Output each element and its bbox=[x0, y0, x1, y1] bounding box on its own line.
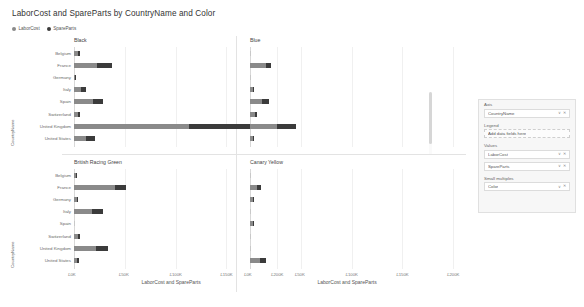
bar-segment-empty bbox=[250, 246, 251, 251]
bar-segment[interactable] bbox=[97, 63, 112, 68]
bar-segment[interactable] bbox=[96, 246, 108, 251]
gridline bbox=[453, 47, 454, 147]
bar-segment[interactable] bbox=[77, 258, 79, 263]
bar-segment[interactable] bbox=[250, 63, 266, 68]
gridline bbox=[301, 169, 302, 269]
panel-divider-vertical bbox=[236, 36, 237, 292]
bar-segment[interactable] bbox=[92, 209, 103, 214]
bar-segment[interactable] bbox=[74, 209, 92, 214]
small-multiple-panel[interactable]: BlackCountryNameBelgiumFranceGermanyItal… bbox=[0, 34, 236, 154]
bar-segment[interactable] bbox=[78, 51, 81, 56]
bar-segment[interactable] bbox=[75, 75, 76, 80]
field-well-item[interactable]: CountryName∨✕ bbox=[484, 109, 570, 118]
x-axis-title: LaborCost and SpareParts bbox=[318, 279, 377, 285]
x-axis-title: LaborCost and SpareParts bbox=[142, 279, 201, 285]
bar-segment[interactable] bbox=[76, 173, 77, 178]
x-tick-label: £150K bbox=[220, 272, 232, 277]
bar-segment-empty bbox=[250, 209, 251, 214]
category-label: United States bbox=[11, 258, 71, 264]
category-label: Switzerland bbox=[11, 234, 71, 240]
category-label: United Kingdom bbox=[11, 246, 71, 252]
field-well-section-label: Small multiples bbox=[479, 174, 575, 183]
x-tick-label: £200K bbox=[447, 272, 459, 277]
bar-segment[interactable] bbox=[262, 99, 269, 104]
bar-segment[interactable] bbox=[266, 63, 272, 68]
bar-segment[interactable] bbox=[81, 87, 86, 92]
bar-segment[interactable] bbox=[86, 136, 95, 141]
field-well-icons: ∨✕ bbox=[558, 183, 567, 190]
bar-segment[interactable] bbox=[74, 136, 86, 141]
gridline bbox=[352, 47, 353, 147]
bar-segment-empty bbox=[250, 51, 251, 56]
bar-segment[interactable] bbox=[74, 246, 96, 251]
bar-segment-empty bbox=[250, 75, 251, 80]
powerbi-visual-canvas: LaborCost and SpareParts by CountryName … bbox=[0, 0, 584, 307]
panel-divider-horizontal bbox=[62, 154, 466, 155]
bar-segment-empty bbox=[250, 234, 251, 239]
bar-segment[interactable] bbox=[74, 87, 81, 92]
bar-segment[interactable] bbox=[250, 99, 262, 104]
legend-dot-icon bbox=[12, 27, 16, 31]
bar-segment[interactable] bbox=[250, 258, 260, 263]
chevron-down-icon[interactable]: ∨ bbox=[558, 185, 561, 189]
field-well-label: SpareParts bbox=[488, 164, 510, 169]
field-well-item[interactable]: LaborCost∨✕ bbox=[484, 150, 570, 159]
small-multiples-plot-area: BlackCountryNameBelgiumFranceGermanyItal… bbox=[0, 34, 466, 297]
bar-segment-empty bbox=[250, 173, 251, 178]
category-label: Spain bbox=[11, 99, 71, 105]
field-well-item[interactable]: SpareParts∨✕ bbox=[484, 162, 570, 171]
gridline bbox=[402, 169, 403, 269]
bar-segment[interactable] bbox=[78, 112, 80, 117]
page-title: LaborCost and SpareParts by CountryName … bbox=[12, 9, 215, 18]
gridline bbox=[453, 169, 454, 269]
bar-segment[interactable] bbox=[253, 87, 254, 92]
bar-segment[interactable] bbox=[77, 197, 78, 202]
chevron-down-icon[interactable]: ∨ bbox=[558, 164, 561, 168]
close-icon[interactable]: ✕ bbox=[563, 164, 566, 168]
field-well-label: CountryName bbox=[488, 111, 515, 116]
bar-segment[interactable] bbox=[93, 99, 103, 104]
small-multiple-panel[interactable]: Blue bbox=[240, 34, 466, 154]
gridline bbox=[226, 169, 227, 269]
legend-item-label: LaborCost bbox=[19, 26, 40, 31]
bar-segment[interactable] bbox=[250, 124, 277, 129]
bar-segment[interactable] bbox=[74, 124, 189, 129]
bar-segment[interactable] bbox=[277, 124, 296, 129]
category-label: United Kingdom bbox=[11, 124, 71, 130]
bar-segment[interactable] bbox=[257, 185, 262, 190]
category-label: Belgium bbox=[11, 51, 71, 57]
legend-item-laborcost[interactable]: LaborCost bbox=[12, 26, 40, 31]
small-multiple-panel[interactable]: British Racing GreenCountryNameBelgiumFr… bbox=[0, 156, 236, 276]
x-tick-label: £0K bbox=[68, 272, 76, 277]
gridline bbox=[125, 47, 126, 147]
bar-segment[interactable] bbox=[115, 185, 126, 190]
field-well-dropzone[interactable]: Add data fields here bbox=[484, 129, 570, 138]
field-well-icons: ∨✕ bbox=[558, 163, 567, 170]
bar-segment[interactable] bbox=[253, 197, 254, 202]
bar-segment[interactable] bbox=[255, 112, 257, 117]
panel-title: Canary Yellow bbox=[250, 159, 283, 165]
small-multiple-panel[interactable]: Canary Yellow£0K£50K£100K£150K£200KLabor… bbox=[240, 156, 466, 276]
chevron-down-icon[interactable]: ∨ bbox=[558, 152, 561, 156]
x-tick-label: £0K bbox=[244, 272, 252, 277]
bar-segment[interactable] bbox=[253, 136, 255, 141]
bar-segment[interactable] bbox=[250, 185, 257, 190]
category-label: France bbox=[11, 63, 71, 69]
bar-segment[interactable] bbox=[78, 234, 80, 239]
bar-segment[interactable] bbox=[260, 258, 267, 263]
chevron-down-icon[interactable]: ∨ bbox=[558, 111, 561, 115]
category-label: Italy bbox=[11, 87, 71, 93]
bar-segment[interactable] bbox=[74, 185, 115, 190]
bar-segment[interactable] bbox=[253, 221, 254, 226]
visualizations-fields-pane[interactable]: AxisCountryName∨✕LegendAdd data fields h… bbox=[478, 99, 576, 213]
close-icon[interactable]: ✕ bbox=[563, 152, 566, 156]
legend-item-spareparts[interactable]: SpareParts bbox=[47, 26, 76, 31]
field-well-section-label: Values bbox=[479, 141, 575, 150]
close-icon[interactable]: ✕ bbox=[563, 184, 566, 188]
close-icon[interactable]: ✕ bbox=[563, 111, 566, 115]
category-label: Italy bbox=[11, 209, 71, 215]
category-label: Germany bbox=[11, 75, 71, 81]
field-well-item[interactable]: Color∨✕ bbox=[484, 182, 570, 191]
bar-segment[interactable] bbox=[74, 63, 97, 68]
bar-segment[interactable] bbox=[74, 99, 93, 104]
